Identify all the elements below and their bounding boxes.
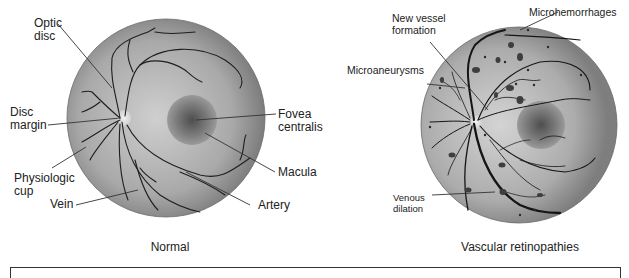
macula [167,95,217,145]
label-macula: Macula [278,166,317,179]
label-venous-dilation: Venous dilation [393,192,425,214]
label-microaneurysms: Microaneurysms [347,64,424,76]
caption-vascular-retinopathies: Vascular retinopathies [460,240,580,254]
label-microhemorrhages: Microhemorrhages [529,6,617,18]
figure-frame-top [10,267,621,278]
retinopathy-fundus [421,27,617,223]
normal-fundus [67,19,265,217]
label-artery: Artery [258,199,290,212]
label-optic-disc: Optic disc [34,17,62,43]
label-disc-margin: Disc margin [10,106,47,132]
macula [517,101,565,149]
caption-normal: Normal [130,240,210,254]
label-physiologic-cup: Physiologic cup [14,172,75,198]
label-new-vessel-formation: New vessel formation [392,12,446,36]
label-fovea-centralis: Fovea centralis [278,108,323,134]
label-vein: Vein [50,198,73,211]
